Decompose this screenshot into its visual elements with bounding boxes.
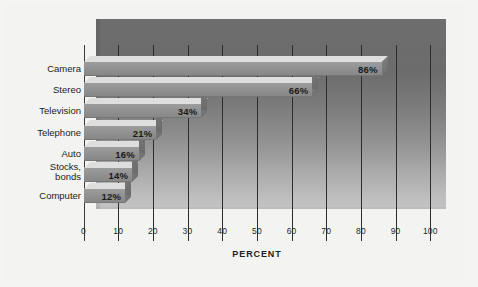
x-tick-label-80: 80 [356,226,366,236]
x-tick-label-100: 100 [423,226,438,236]
category-label-auto: Auto [61,149,81,159]
x-tick-label-40: 40 [217,226,227,236]
bar-stereo[interactable] [84,83,313,97]
staircase-riser [312,76,318,89]
bar-value-label: 66% [282,85,308,96]
staircase-riser [125,182,131,195]
plot-area: 010203040506070809010012%Computer14%Stoc… [0,0,478,287]
x-tick-label-0: 0 [81,226,86,236]
bar-value-label: 34% [171,106,197,117]
x-axis-title: PERCENT [232,249,281,259]
category-label-computer: Computer [39,191,81,201]
category-label-stereo: Stereo [53,85,81,95]
gridline-90 [396,45,397,241]
category-label-telephone: Telephone [37,128,81,138]
bar-value-label: 14% [102,170,128,181]
category-label-stocksbonds: Stocks, bonds [50,162,81,181]
staircase-riser [156,118,162,131]
x-tick-label-70: 70 [321,226,331,236]
x-tick-label-50: 50 [252,226,262,236]
bar-value-label: 12% [95,191,121,202]
x-tick-label-60: 60 [287,226,297,236]
chart-figure: 010203040506070809010012%Computer14%Stoc… [0,0,478,287]
x-tick-label-30: 30 [183,226,193,236]
x-tick-label-10: 10 [113,226,123,236]
bar-value-label: 16% [109,149,135,160]
staircase-riser [132,161,138,174]
x-tick-label-20: 20 [148,226,158,236]
staircase-riser [201,97,207,110]
bar-value-label: 86% [352,64,378,75]
category-label-camera: Camera [47,64,81,74]
gridline-100 [430,45,431,241]
staircase-riser [139,140,145,153]
category-label-television: Television [39,106,81,116]
x-tick-label-90: 90 [391,226,401,236]
bar-value-label: 21% [126,128,152,139]
bar-camera[interactable] [84,62,382,76]
